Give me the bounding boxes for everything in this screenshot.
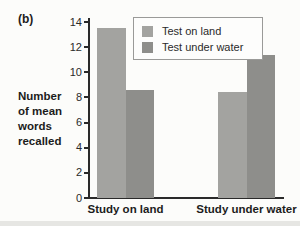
y-tick-mark (84, 147, 89, 149)
x-category-label: Study on land (61, 203, 191, 215)
y-tick-label: 0 (55, 192, 82, 204)
y-tick-label: 2 (55, 166, 82, 178)
y-tick-label: 14 (55, 16, 82, 28)
bar-test-under-water (126, 90, 155, 198)
y-tick-mark (84, 122, 89, 124)
y-tick-mark (84, 71, 89, 73)
legend-label: Test on land (162, 25, 221, 37)
y-tick-mark (84, 96, 89, 98)
legend-item-test-under-water: Test under water (142, 39, 262, 55)
page-edge-shadow (0, 221, 300, 226)
legend-item-test-on-land: Test on land (142, 23, 262, 39)
y-tick-label: 12 (55, 41, 82, 53)
panel-label: (b) (18, 12, 33, 26)
bar-test-on-land (218, 92, 247, 198)
bar-chart-figure: (b) Number of mean words recalled 024681… (0, 0, 300, 226)
legend-label: Test under water (162, 41, 243, 53)
y-tick-label: 4 (55, 141, 82, 153)
legend-swatch-test-under-water (142, 42, 153, 53)
bar-test-under-water (247, 55, 276, 198)
x-category-label: Study under water (182, 203, 301, 215)
y-tick-mark (84, 46, 89, 48)
y-tick-label: 8 (55, 91, 82, 103)
y-tick-label: 6 (55, 116, 82, 128)
y-tick-mark (84, 21, 89, 23)
legend-swatch-test-on-land (142, 26, 153, 37)
y-tick-mark (84, 197, 89, 199)
y-tick-label: 10 (55, 66, 82, 78)
y-tick-mark (84, 172, 89, 174)
legend-box: Test on land Test under water (133, 17, 263, 60)
bar-test-on-land (97, 28, 126, 198)
